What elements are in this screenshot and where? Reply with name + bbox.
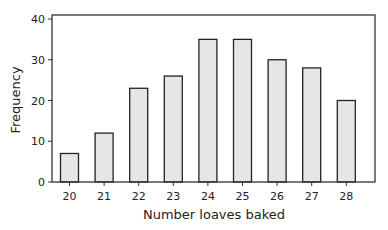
y-tick-label: 10 xyxy=(31,135,45,148)
bar-22 xyxy=(130,88,148,182)
y-tick-label: 30 xyxy=(31,54,45,67)
bar-23 xyxy=(164,76,182,182)
x-tick-label: 23 xyxy=(166,190,180,203)
bar-chart: 010203040 202122232425262728 Number loav… xyxy=(0,0,388,230)
bars-group xyxy=(61,39,356,182)
x-tick-label: 24 xyxy=(201,190,215,203)
x-axis: 202122232425262728 xyxy=(63,182,354,203)
bar-24 xyxy=(199,39,217,182)
bar-26 xyxy=(268,60,286,182)
x-tick-label: 26 xyxy=(270,190,284,203)
x-tick-label: 25 xyxy=(236,190,250,203)
y-axis-title: Frequency xyxy=(8,66,23,133)
x-axis-title: Number loaves baked xyxy=(143,207,285,222)
bar-28 xyxy=(337,101,355,183)
x-tick-label: 20 xyxy=(63,190,77,203)
y-axis: 010203040 xyxy=(31,13,52,189)
x-tick-label: 21 xyxy=(97,190,111,203)
bar-20 xyxy=(61,153,79,182)
y-tick-label: 20 xyxy=(31,95,45,108)
y-tick-label: 40 xyxy=(31,13,45,26)
bar-25 xyxy=(234,39,252,182)
bar-27 xyxy=(303,68,321,182)
bar-21 xyxy=(95,133,113,182)
y-tick-label: 0 xyxy=(38,176,45,189)
x-tick-label: 27 xyxy=(305,190,319,203)
x-tick-label: 22 xyxy=(132,190,146,203)
x-tick-label: 28 xyxy=(339,190,353,203)
